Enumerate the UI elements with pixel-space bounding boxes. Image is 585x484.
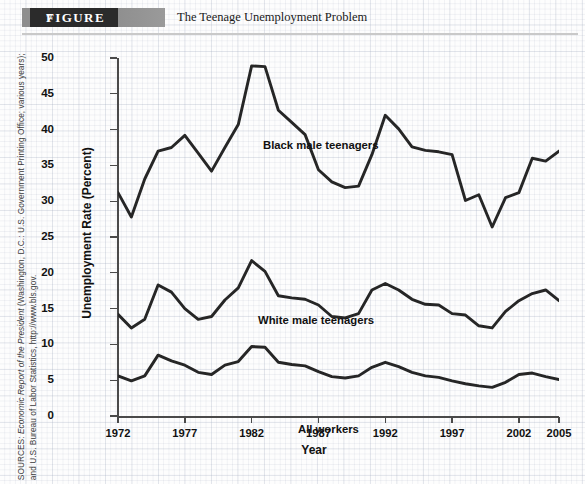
x-tick-label-2005: 2005	[536, 427, 582, 439]
x-tick-label-1977: 1977	[162, 427, 208, 439]
y-axis-title: Unemployment Rate (Percent)	[80, 54, 94, 412]
y-tick-45	[110, 93, 117, 94]
y-tick-50	[110, 57, 117, 58]
y-tick-label-15: 15	[20, 302, 54, 314]
y-tick-label-40: 40	[20, 123, 54, 135]
plot-area	[118, 58, 559, 416]
series-line-all-workers	[118, 347, 559, 388]
series-label-black-male-teenagers: Black male teenagers	[263, 139, 379, 151]
figure-header: FIGURE 7 The Teenage Unemployment Proble…	[22, 8, 578, 34]
x-tick-label-1992: 1992	[362, 427, 408, 439]
series-label-white-male-teenagers: White male teenagers	[258, 314, 374, 326]
x-tick-1997	[451, 417, 452, 423]
y-tick-40	[110, 129, 117, 130]
y-tick-35	[110, 165, 117, 166]
x-tick-1982	[251, 417, 252, 423]
x-tick-2002	[518, 417, 519, 423]
y-tick-30	[110, 201, 117, 202]
figure-badge: FIGURE 7	[22, 8, 165, 27]
x-axis-title: Year	[58, 443, 570, 457]
y-tick-label-10: 10	[20, 337, 54, 349]
y-tick-25	[110, 236, 117, 237]
header-divider	[22, 33, 578, 35]
x-tick-label-1982: 1982	[229, 427, 275, 439]
y-tick-label-35: 35	[20, 158, 54, 170]
y-tick-10	[110, 344, 117, 345]
y-tick-15	[110, 308, 117, 309]
x-tick-label-1972: 1972	[95, 427, 141, 439]
x-tick-2005	[558, 417, 559, 423]
figure-number: 7	[46, 10, 54, 26]
x-tick-label-2002: 2002	[496, 427, 542, 439]
y-tick-label-50: 50	[20, 51, 54, 63]
y-tick-label-45: 45	[20, 87, 54, 99]
y-tick-5	[110, 380, 117, 381]
chart-container: 05101520253035404550 1972197719821987199…	[58, 46, 570, 458]
figure-badge-word: FIGURE	[46, 10, 105, 26]
x-tick-1977	[184, 417, 185, 423]
y-tick-label-20: 20	[20, 266, 54, 278]
y-tick-label-25: 25	[20, 230, 54, 242]
y-tick-0	[110, 415, 117, 416]
x-tick-1992	[385, 417, 386, 423]
y-tick-label-0: 0	[20, 409, 54, 421]
x-tick-1972	[117, 417, 118, 423]
series-label-all-workers: All workers	[298, 423, 359, 435]
y-tick-20	[110, 272, 117, 273]
figure-title: The Teenage Unemployment Problem	[177, 10, 367, 25]
y-tick-label-5: 5	[20, 373, 54, 385]
x-tick-label-1997: 1997	[429, 427, 475, 439]
y-tick-label-30: 30	[20, 194, 54, 206]
